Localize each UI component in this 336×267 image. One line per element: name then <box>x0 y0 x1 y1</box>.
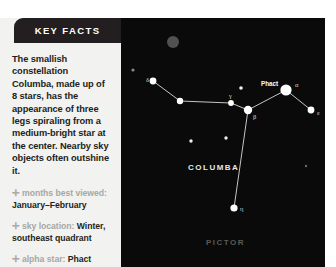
key-facts-panel: KEY FACTS The smallish constellation Col… <box>0 18 121 267</box>
key-facts-infographic: KEY FACTS The smallish constellation Col… <box>0 0 336 267</box>
constellation-line <box>180 101 231 103</box>
fact-months-best-viewed: ✛months best viewed: January–February <box>12 188 110 211</box>
constellation-line <box>234 110 248 208</box>
constellation-star-map: δγβαεηPhactCOLUMBAPICTOR <box>121 18 325 267</box>
star-beta <box>244 106 252 114</box>
star-label-alpha: α <box>295 81 299 88</box>
key-facts-body: The smallish constellation Columba, made… <box>0 43 121 267</box>
fact-value-alpha-star: Phact <box>68 254 91 264</box>
alpha-star-name-label: Phact <box>261 80 279 87</box>
star-label-beta: β <box>253 113 257 120</box>
star-label-eta: η <box>240 205 244 212</box>
star-label-epsil: ε <box>317 109 320 116</box>
field-star <box>305 165 307 167</box>
fact-value-months: January–February <box>12 200 87 210</box>
constellation-line <box>248 90 286 110</box>
bullet-plus-icon: ✛ <box>12 221 20 231</box>
neighbor-constellation-label: PICTOR <box>206 238 245 247</box>
constellation-description: The smallish constellation Columba, made… <box>12 53 110 177</box>
star-eta <box>230 204 237 211</box>
key-facts-header: KEY FACTS <box>14 18 121 43</box>
star-epsil <box>308 107 315 114</box>
constellation-name-label: COLUMBA <box>188 163 239 172</box>
constellation-line <box>153 81 180 101</box>
star-mid1 <box>177 98 183 104</box>
field-star <box>224 136 227 139</box>
fact-label-alpha-star: alpha star: <box>22 254 65 264</box>
field-star <box>189 139 192 142</box>
star-gamma <box>228 100 234 106</box>
star-label-delta: δ <box>146 76 149 83</box>
star-delta <box>150 78 157 85</box>
bullet-plus-icon: ✛ <box>12 254 20 264</box>
star-label-gamma: γ <box>228 92 232 99</box>
deep-sky-object <box>167 36 179 48</box>
fact-label-sky-location: sky location: <box>22 221 74 231</box>
field-star <box>131 68 134 71</box>
fact-sky-location: ✛sky location: Winter, southeast quadran… <box>12 221 110 244</box>
star-alpha <box>280 84 291 95</box>
key-facts-title: KEY FACTS <box>35 25 101 36</box>
bullet-plus-icon: ✛ <box>12 188 20 198</box>
fact-label-months: months best viewed: <box>22 188 107 198</box>
field-star <box>239 86 243 90</box>
star-chart-panel: δγβαεηPhactCOLUMBAPICTOR <box>121 18 325 267</box>
fact-alpha-star: ✛alpha star: Phact <box>12 254 110 266</box>
